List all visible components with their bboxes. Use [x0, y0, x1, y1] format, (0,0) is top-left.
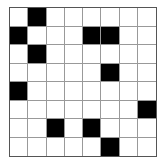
grid-cell-r2-c5[interactable] [101, 45, 119, 64]
grid-cell-r6-c7[interactable] [138, 119, 156, 138]
grid-cell-r5-c7[interactable] [138, 101, 156, 120]
grid-cell-r3-c4[interactable] [83, 64, 101, 83]
grid-cell-r3-c1[interactable] [28, 64, 46, 83]
grid-cell-r0-c1[interactable] [28, 8, 46, 27]
grid-cell-r7-c2[interactable] [47, 138, 65, 157]
grid-cell-r3-c2[interactable] [47, 64, 65, 83]
grid-cell-r6-c5[interactable] [101, 119, 119, 138]
grid-cell-r0-c4[interactable] [83, 8, 101, 27]
grid-cell-r0-c5[interactable] [101, 8, 119, 27]
grid-cell-r1-c0[interactable] [10, 27, 28, 46]
grid-cell-r7-c3[interactable] [65, 138, 83, 157]
grid-cell-r1-c6[interactable] [120, 27, 138, 46]
grid-cell-r7-c1[interactable] [28, 138, 46, 157]
grid-cell-r5-c0[interactable] [10, 101, 28, 120]
grid-cell-r1-c4[interactable] [83, 27, 101, 46]
grid-cell-r6-c3[interactable] [65, 119, 83, 138]
grid-cell-r7-c6[interactable] [120, 138, 138, 157]
grid-cell-r7-c5[interactable] [101, 138, 119, 157]
grid-cell-r3-c0[interactable] [10, 64, 28, 83]
grid-cell-r4-c3[interactable] [65, 82, 83, 101]
grid-cell-r4-c1[interactable] [28, 82, 46, 101]
grid-cell-r2-c3[interactable] [65, 45, 83, 64]
grid-cell-r3-c7[interactable] [138, 64, 156, 83]
grid-cell-r7-c7[interactable] [138, 138, 156, 157]
grid-cell-r6-c1[interactable] [28, 119, 46, 138]
grid-cell-r0-c3[interactable] [65, 8, 83, 27]
grid-cell-r2-c0[interactable] [10, 45, 28, 64]
grid-cell-r1-c1[interactable] [28, 27, 46, 46]
grid-cell-r6-c0[interactable] [10, 119, 28, 138]
grid-cell-r4-c5[interactable] [101, 82, 119, 101]
grid-cell-r0-c6[interactable] [120, 8, 138, 27]
grid-cell-r5-c6[interactable] [120, 101, 138, 120]
grid-cell-r3-c3[interactable] [65, 64, 83, 83]
grid-cell-r1-c5[interactable] [101, 27, 119, 46]
grid-cell-r0-c7[interactable] [138, 8, 156, 27]
puzzle-grid [9, 7, 157, 157]
grid-cell-r4-c7[interactable] [138, 82, 156, 101]
grid-cell-r0-c0[interactable] [10, 8, 28, 27]
grid-cell-r5-c4[interactable] [83, 101, 101, 120]
grid-cell-r5-c3[interactable] [65, 101, 83, 120]
grid-cell-r5-c5[interactable] [101, 101, 119, 120]
grid-cell-r1-c3[interactable] [65, 27, 83, 46]
grid-cell-r7-c4[interactable] [83, 138, 101, 157]
grid-cell-r3-c5[interactable] [101, 64, 119, 83]
grid-cell-r1-c2[interactable] [47, 27, 65, 46]
grid-cell-r4-c2[interactable] [47, 82, 65, 101]
grid-cell-r1-c7[interactable] [138, 27, 156, 46]
grid-cell-r0-c2[interactable] [47, 8, 65, 27]
grid-cell-r5-c1[interactable] [28, 101, 46, 120]
grid-cell-r5-c2[interactable] [47, 101, 65, 120]
grid-cell-r4-c0[interactable] [10, 82, 28, 101]
grid-cell-r6-c4[interactable] [83, 119, 101, 138]
grid-cell-r2-c7[interactable] [138, 45, 156, 64]
grid-cell-r4-c4[interactable] [83, 82, 101, 101]
grid-cell-r2-c2[interactable] [47, 45, 65, 64]
grid-cell-r2-c6[interactable] [120, 45, 138, 64]
grid-cell-r6-c6[interactable] [120, 119, 138, 138]
grid-cell-r3-c6[interactable] [120, 64, 138, 83]
grid-cell-r2-c1[interactable] [28, 45, 46, 64]
grid-cell-r7-c0[interactable] [10, 138, 28, 157]
grid-cell-r4-c6[interactable] [120, 82, 138, 101]
grid-cell-r2-c4[interactable] [83, 45, 101, 64]
grid-cell-r6-c2[interactable] [47, 119, 65, 138]
